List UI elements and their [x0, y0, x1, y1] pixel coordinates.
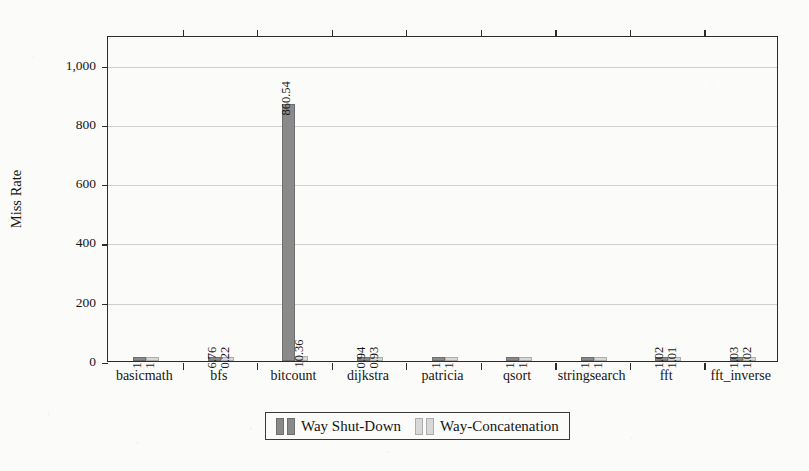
bar-value-label: 1.02 — [653, 347, 666, 369]
bar-value-label: 0.22 — [218, 347, 231, 369]
bar-bitcount-series0 — [282, 104, 295, 361]
x-axis-tick — [406, 363, 407, 370]
legend-color-swatch — [287, 418, 295, 435]
bar-qsort-series0 — [506, 357, 519, 361]
legend-entry-0: Way Shut-Down — [276, 418, 401, 435]
bar-value-label: 0.93 — [367, 347, 380, 369]
bar-value-label: 0.94 — [354, 347, 367, 369]
legend-swatch-group — [276, 418, 295, 435]
gridline — [108, 244, 777, 245]
y-axis-tick-label: 400 — [76, 236, 96, 250]
y-axis-tick-label: 800 — [76, 118, 96, 132]
x-axis-tick-top — [183, 30, 184, 37]
bar-value-label: 860.54 — [280, 81, 293, 115]
x-axis-tick — [630, 363, 631, 370]
y-axis-tick — [102, 185, 108, 186]
x-axis-tick-top — [257, 30, 258, 37]
plot-area: 116.760.22860.5410.360.940.931111111.021… — [107, 36, 778, 362]
y-axis-title: Miss Rate — [8, 170, 25, 228]
legend-entry-1: Way-Concatenation — [415, 418, 559, 435]
x-axis-label-patricia: patricia — [422, 368, 464, 384]
x-axis-label-bitcount: bitcount — [270, 368, 316, 384]
x-axis-label-basicmath: basicmath — [116, 368, 173, 384]
x-axis-tick-top — [332, 30, 333, 37]
legend-color-swatch — [276, 418, 284, 435]
legend-label: Way-Concatenation — [440, 419, 559, 434]
bar-value-label: 1.02 — [740, 347, 753, 369]
y-axis-tick — [102, 67, 108, 68]
y-axis-tick-label: 0 — [89, 355, 96, 369]
x-axis-label-dijkstra: dijkstra — [347, 368, 389, 384]
bar-patricia-series0 — [432, 357, 445, 361]
bar-stringsearch-series0 — [581, 357, 594, 361]
bar-chart-figure: Miss Rate 02004006008001,000 116.760.228… — [0, 0, 809, 471]
y-axis-tick-label: 1,000 — [66, 59, 96, 73]
x-axis-tick — [257, 363, 258, 370]
x-axis-label-stringsearch: stringsearch — [558, 368, 626, 384]
x-axis-tick-top — [481, 30, 482, 37]
legend-swatch-group — [415, 418, 434, 435]
x-axis-tick-top — [555, 30, 556, 37]
legend-color-swatch — [426, 418, 434, 435]
x-axis-tick-top — [630, 30, 631, 37]
x-axis-label-fft: fft — [660, 368, 673, 384]
bar-basicmath-series1 — [146, 357, 159, 361]
chart-legend: Way Shut-DownWay-Concatenation — [265, 412, 570, 440]
x-axis-tick — [183, 363, 184, 370]
x-axis-tick — [704, 363, 705, 370]
y-axis-tick-label: 600 — [76, 177, 96, 191]
y-axis-tick — [102, 363, 108, 364]
bar-value-label: 1.03 — [727, 347, 740, 369]
x-axis-label-bfs: bfs — [210, 368, 227, 384]
bar-basicmath-series0 — [133, 357, 146, 361]
legend-color-swatch — [415, 418, 423, 435]
gridline — [108, 67, 777, 68]
x-axis-tick — [332, 363, 333, 370]
bar-value-label: 6.76 — [205, 347, 218, 369]
bar-value-label: 10.36 — [293, 339, 306, 367]
x-axis-tick — [481, 363, 482, 370]
x-axis-label-fft_inverse: fft_inverse — [711, 368, 771, 384]
y-axis-tick — [102, 126, 108, 127]
gridline — [108, 304, 777, 305]
legend-label: Way Shut-Down — [301, 419, 401, 434]
x-axis-tick — [555, 363, 556, 370]
bar-patricia-series1 — [445, 357, 458, 361]
bar-qsort-series1 — [519, 357, 532, 361]
bar-value-label: 1.01 — [666, 347, 679, 369]
x-axis-label-qsort: qsort — [503, 368, 531, 384]
gridline — [108, 185, 777, 186]
y-axis-tick — [102, 244, 108, 245]
bar-stringsearch-series1 — [594, 357, 607, 361]
gridline — [108, 126, 777, 127]
x-axis-tick-top — [406, 30, 407, 37]
x-axis-tick-top — [704, 30, 705, 37]
y-axis-tick — [102, 304, 108, 305]
y-axis-tick-label: 200 — [76, 296, 96, 310]
